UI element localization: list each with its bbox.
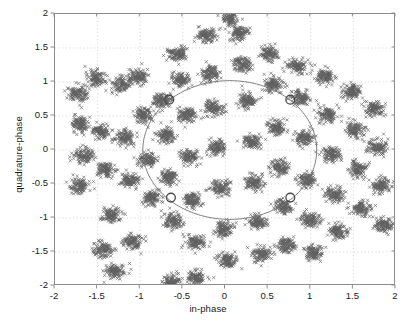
y-tick-label: 1.5 (8, 42, 48, 52)
x-tick-label: -2 (50, 291, 58, 301)
x-tick-label: 0.5 (261, 291, 274, 301)
x-axis-label: in-phase (0, 303, 416, 314)
constellation-figure: -2-1.5-1-0.500.511.52 -2-1.5-1-0.500.511… (0, 0, 416, 326)
x-tick-label: 0 (222, 291, 227, 301)
x-tick-label: -1 (135, 291, 143, 301)
y-tick-label: -2 (8, 280, 48, 290)
y-tick-label: 2 (8, 8, 48, 18)
x-tick-label: 2 (392, 291, 397, 301)
y-tick-label: -1.5 (8, 246, 48, 256)
data-points (63, 14, 395, 285)
plot-area (54, 13, 395, 285)
y-axis-label: quadrature-phase (13, 75, 24, 235)
x-tick-label: 1 (307, 291, 312, 301)
scatter-plot-canvas (55, 14, 395, 285)
x-tick-label: -0.5 (174, 291, 190, 301)
x-tick-label: -1.5 (88, 291, 104, 301)
x-tick-label: 1.5 (346, 291, 359, 301)
